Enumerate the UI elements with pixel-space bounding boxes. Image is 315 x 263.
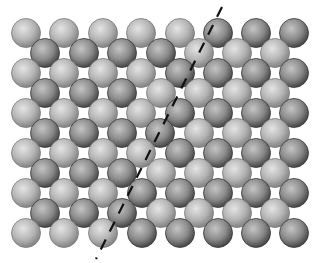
dark-sphere [166, 219, 195, 248]
sphere-lattice-canvas [0, 0, 315, 263]
grain-boundary-diagram [0, 0, 315, 263]
light-sphere [50, 219, 79, 248]
dark-sphere [128, 219, 157, 248]
dark-sphere [242, 219, 271, 248]
light-sphere [12, 219, 41, 248]
dark-sphere [280, 219, 309, 248]
dark-sphere [204, 219, 233, 248]
